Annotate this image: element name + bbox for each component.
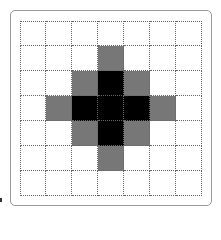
grid-cell — [150, 171, 176, 196]
grid-cell — [72, 46, 98, 71]
grid-cell — [46, 121, 72, 146]
grid-cell — [176, 21, 202, 46]
grid-cell — [98, 96, 124, 121]
grid-cell — [150, 21, 176, 46]
grid-cell — [46, 171, 72, 196]
grid-cell — [176, 71, 202, 96]
grid-cell — [72, 21, 98, 46]
grid-cell — [98, 171, 124, 196]
grid-cell — [20, 71, 46, 96]
grid-cell — [46, 71, 72, 96]
grid-cell — [20, 171, 46, 196]
grid-cell — [98, 121, 124, 146]
grid-cell — [46, 146, 72, 171]
grid-cell — [98, 21, 124, 46]
grid-cell — [176, 121, 202, 146]
grid-cell — [124, 146, 150, 171]
grid-cell — [98, 46, 124, 71]
grid-cell — [20, 96, 46, 121]
grid-cell — [20, 121, 46, 146]
grid-cell — [72, 171, 98, 196]
grid-cell — [176, 171, 202, 196]
grid-cell — [124, 21, 150, 46]
grid-cell — [124, 171, 150, 196]
grid-cell — [150, 96, 176, 121]
grid-cell — [72, 96, 98, 121]
grid-cell — [124, 46, 150, 71]
grid-cell — [124, 71, 150, 96]
grid-cell — [46, 96, 72, 121]
grid-cell — [72, 121, 98, 146]
grid-cell — [124, 121, 150, 146]
grid-cell — [72, 71, 98, 96]
grid-cell — [150, 121, 176, 146]
edge-mark — [0, 198, 2, 202]
grid-cell — [150, 71, 176, 96]
pixel-grid — [20, 21, 202, 196]
grid-cell — [46, 46, 72, 71]
grid-cell — [20, 46, 46, 71]
grid-cell — [72, 146, 98, 171]
grid-cell — [20, 21, 46, 46]
grid-cell — [20, 146, 46, 171]
grid-cell — [150, 46, 176, 71]
grid-cell — [176, 96, 202, 121]
grid-cell — [150, 146, 176, 171]
grid-cell — [176, 46, 202, 71]
grid-cell — [46, 21, 72, 46]
grid-cell — [98, 146, 124, 171]
grid-cell — [124, 96, 150, 121]
grid-cell — [176, 146, 202, 171]
grid-cell — [98, 71, 124, 96]
